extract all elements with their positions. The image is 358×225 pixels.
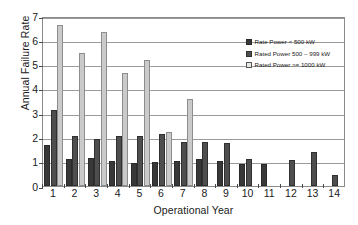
y-tick-label: 7: [24, 12, 38, 23]
bar-group: [65, 18, 87, 186]
x-tick-mark: [107, 184, 108, 188]
x-tick-mark: [258, 184, 259, 188]
legend-label: Rate Power < 500 kW: [255, 39, 315, 45]
chart-legend: Rate Power < 500 kWRated Power 500 – 999…: [246, 37, 346, 72]
x-tick-label: 6: [150, 188, 172, 200]
bar-group: [216, 18, 238, 186]
x-tick-label: 2: [63, 188, 85, 200]
legend-label: Rated Power 500 – 999 kW: [255, 51, 331, 57]
x-tick-label: 4: [107, 188, 129, 200]
legend-swatch-icon: [246, 62, 252, 68]
x-tick-label: 11: [258, 188, 280, 200]
x-axis-tick-labels: 1234567891011121314: [42, 188, 345, 202]
plot-area: Rate Power < 500 kWRated Power 500 – 999…: [42, 17, 345, 187]
y-tick-label: 1: [24, 157, 38, 168]
legend-item: Rated Power >= 1000 kW: [246, 60, 346, 72]
x-tick-mark: [85, 184, 86, 188]
x-tick-mark: [323, 184, 324, 188]
bar-group: [151, 18, 173, 186]
x-tick-label: 13: [302, 188, 324, 200]
x-tick-label: 12: [280, 188, 302, 200]
x-tick-mark: [302, 184, 303, 188]
x-tick-mark: [42, 184, 43, 188]
legend-item: Rated Power 500 – 999 kW: [246, 48, 346, 60]
x-tick-label: 3: [85, 188, 107, 200]
y-tick-label: 0: [24, 182, 38, 193]
y-tick-label: 6: [24, 36, 38, 47]
legend-label: Rated Power >= 1000 kW: [255, 62, 326, 68]
bar-group: [195, 18, 217, 186]
legend-item: Rate Power < 500 kW: [246, 37, 346, 49]
bar-group: [86, 18, 108, 186]
x-tick-mark: [150, 184, 151, 188]
y-tick-label: 5: [24, 60, 38, 71]
x-axis-title: Operational Year: [42, 204, 345, 216]
x-tick-label: 5: [128, 188, 150, 200]
legend-swatch-icon: [246, 51, 252, 57]
x-tick-label: 1: [42, 188, 64, 200]
x-tick-mark: [64, 184, 65, 188]
legend-swatch-icon: [246, 39, 252, 45]
y-tick-label: 4: [24, 84, 38, 95]
bar-group: [108, 18, 130, 186]
y-axis-tick-labels: 01234567: [24, 10, 38, 190]
bar-group: [130, 18, 152, 186]
y-tick-label: 3: [24, 109, 38, 120]
bar-group: [43, 18, 65, 186]
x-tick-label: 14: [323, 188, 345, 200]
x-tick-label: 9: [215, 188, 237, 200]
x-tick-mark: [194, 184, 195, 188]
y-tick-label: 2: [24, 133, 38, 144]
x-tick-label: 8: [193, 188, 215, 200]
bar-group: [173, 18, 195, 186]
bar-chart: Annual Failure Rate 01234567 Rate Power …: [0, 0, 358, 225]
x-tick-mark: [129, 184, 130, 188]
x-tick-mark: [172, 184, 173, 188]
x-tick-mark: [237, 184, 238, 188]
x-tick-label: 10: [237, 188, 259, 200]
x-tick-label: 7: [172, 188, 194, 200]
x-tick-mark: [215, 184, 216, 188]
x-tick-mark: [280, 184, 281, 188]
